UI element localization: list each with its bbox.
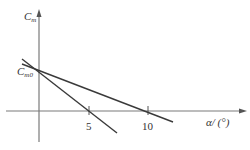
x-tick-label-10: 10 (142, 121, 153, 132)
cm0-label: Cm0 (17, 66, 33, 79)
y-axis-arrow-icon (37, 9, 42, 17)
x-tick-label-5: 5 (86, 121, 92, 132)
x-axis-arrow-icon (239, 109, 247, 114)
series-shallow-line (22, 64, 173, 122)
y-axis-label-sub: m (31, 16, 36, 24)
x-axis-label: α/ (°) (206, 117, 229, 128)
y-axis-label: Cm (24, 11, 36, 24)
cm0-label-sub: m0 (24, 71, 33, 79)
